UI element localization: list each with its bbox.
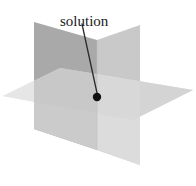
horizontal-left-wedge xyxy=(0,60,34,140)
solution-label: solution xyxy=(60,13,109,29)
solution-point-dot xyxy=(93,93,101,101)
horizontal-right-wedge xyxy=(140,60,196,140)
horizontal-right-wedge-group xyxy=(140,60,196,140)
planes-intersection-figure: solution xyxy=(0,0,196,186)
figure-canvas: solution xyxy=(0,0,196,186)
horizontal-left-wedge-group xyxy=(0,60,34,140)
